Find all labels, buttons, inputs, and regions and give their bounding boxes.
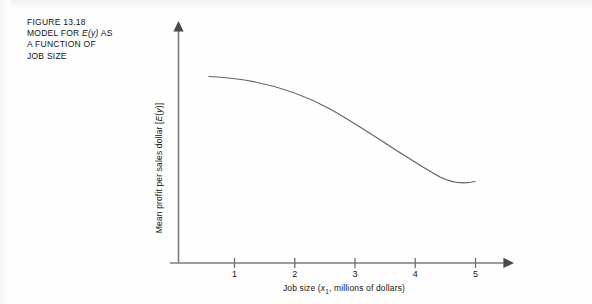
x-tick-label-1: 1: [225, 269, 245, 279]
x-tick-label-2: 2: [285, 269, 305, 279]
x-tick-label-4: 4: [405, 269, 425, 279]
x-tick-label-5: 5: [466, 269, 486, 279]
y-axis-title-text: Mean profit per sales dollar [E(y)]: [154, 103, 164, 233]
figure-page: FIGURE 13.18 MODEL FOR E(y) AS A FUNCTIO…: [0, 0, 592, 304]
x-axis-title: Job size (x1, millions of dollars): [178, 283, 510, 295]
x-axis-title-post: , millions of dollars): [329, 283, 405, 293]
x-tick-label-3: 3: [345, 269, 365, 279]
plot-area: [0, 0, 592, 304]
model-curve: [209, 77, 475, 183]
x-axis-title-pre: Job size (: [283, 283, 321, 293]
y-axis-title: Mean profit per sales dollar [E(y)]: [152, 88, 166, 248]
